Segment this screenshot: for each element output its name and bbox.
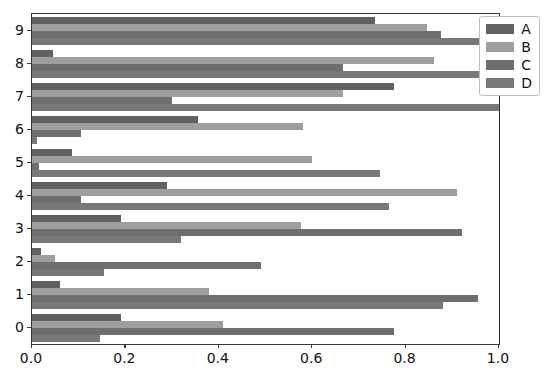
x-tick-mark-0.4 — [218, 344, 219, 348]
bar-C-0 — [32, 328, 394, 335]
bar-B-0 — [32, 321, 223, 328]
bar-B-9 — [32, 24, 427, 31]
bar-D-0 — [32, 335, 100, 342]
chart-figure: 0123456789 0.00.20.40.60.81.0 ABCD — [0, 0, 549, 381]
legend-swatch-B — [486, 42, 514, 52]
y-tick-mark-5 — [27, 162, 31, 163]
y-tick-label-2: 2 — [15, 254, 24, 268]
bar-B-2 — [32, 255, 55, 262]
legend-label-B: B — [521, 40, 531, 54]
x-tick-label-0.4: 0.4 — [207, 351, 229, 365]
legend-label-C: C — [521, 58, 531, 72]
bar-D-8 — [32, 71, 499, 78]
bar-A-7 — [32, 83, 394, 90]
bar-C-8 — [32, 64, 343, 71]
y-axis: 0123456789 — [0, 13, 31, 343]
bar-A-3 — [32, 215, 121, 222]
x-tick-mark-0.0 — [31, 344, 32, 348]
y-tick-label-8: 8 — [15, 56, 24, 70]
y-tick-label-6: 6 — [15, 122, 24, 136]
bar-A-4 — [32, 182, 167, 189]
x-tick-mark-1.0 — [498, 344, 499, 348]
y-tick-label-5: 5 — [15, 155, 24, 169]
y-tick-mark-6 — [27, 129, 31, 130]
legend-label-A: A — [521, 22, 531, 36]
y-tick-mark-0 — [27, 327, 31, 328]
bar-D-6 — [32, 137, 37, 144]
x-tick-label-0.8: 0.8 — [393, 351, 415, 365]
legend-swatch-D — [486, 78, 514, 88]
x-tick-label-0.6: 0.6 — [300, 351, 322, 365]
y-tick-mark-3 — [27, 228, 31, 229]
bar-A-8 — [32, 50, 53, 57]
legend-swatch-A — [486, 24, 514, 34]
y-tick-label-7: 7 — [15, 89, 24, 103]
bar-B-6 — [32, 123, 303, 130]
x-axis: 0.00.20.40.60.81.0 — [31, 344, 498, 381]
bar-A-1 — [32, 281, 60, 288]
bar-C-9 — [32, 31, 441, 38]
y-tick-label-1: 1 — [15, 287, 24, 301]
y-tick-mark-4 — [27, 195, 31, 196]
legend-item-D[interactable]: D — [486, 76, 532, 90]
y-tick-label-3: 3 — [15, 221, 24, 235]
x-tick-label-0.2: 0.2 — [113, 351, 135, 365]
bar-C-7 — [32, 97, 172, 104]
legend-item-B[interactable]: B — [486, 40, 532, 54]
legend-item-C[interactable]: C — [486, 58, 532, 72]
x-tick-mark-0.8 — [405, 344, 406, 348]
x-tick-mark-0.2 — [124, 344, 125, 348]
bar-A-9 — [32, 17, 375, 24]
bar-D-4 — [32, 203, 389, 210]
bar-C-2 — [32, 262, 261, 269]
bar-B-7 — [32, 90, 343, 97]
bar-C-5 — [32, 163, 39, 170]
y-tick-mark-1 — [27, 294, 31, 295]
bar-C-4 — [32, 196, 81, 203]
bar-B-3 — [32, 222, 301, 229]
chart-legend: ABCD — [479, 16, 540, 96]
bar-D-9 — [32, 38, 499, 45]
legend-item-A[interactable]: A — [486, 22, 532, 36]
bar-D-2 — [32, 269, 104, 276]
y-tick-mark-2 — [27, 261, 31, 262]
bar-D-7 — [32, 104, 499, 111]
bar-B-8 — [32, 57, 434, 64]
bar-B-5 — [32, 156, 312, 163]
y-tick-label-9: 9 — [15, 23, 24, 37]
x-tick-label-0.0: 0.0 — [20, 351, 42, 365]
bar-A-5 — [32, 149, 72, 156]
y-tick-label-0: 0 — [15, 320, 24, 334]
bar-A-6 — [32, 116, 198, 123]
x-tick-label-1.0: 1.0 — [487, 351, 509, 365]
bar-A-2 — [32, 248, 41, 255]
bar-B-4 — [32, 189, 457, 196]
legend-label-D: D — [521, 76, 532, 90]
x-tick-mark-0.6 — [311, 344, 312, 348]
bar-D-3 — [32, 236, 181, 243]
bar-B-1 — [32, 288, 209, 295]
plot-area — [31, 13, 500, 345]
bar-C-1 — [32, 295, 478, 302]
bar-C-3 — [32, 229, 462, 236]
bar-D-1 — [32, 302, 443, 309]
bar-C-6 — [32, 130, 81, 137]
legend-swatch-C — [486, 60, 514, 70]
bar-A-0 — [32, 314, 121, 321]
y-tick-mark-8 — [27, 63, 31, 64]
y-tick-mark-7 — [27, 96, 31, 97]
y-tick-mark-9 — [27, 30, 31, 31]
y-tick-label-4: 4 — [15, 188, 24, 202]
bar-D-5 — [32, 170, 380, 177]
